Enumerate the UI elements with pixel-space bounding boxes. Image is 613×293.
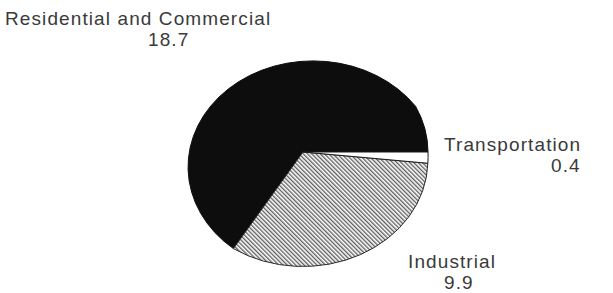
pie-chart-figure: Residential and Commercial 18.7 Transpor… [0, 0, 613, 293]
pie-value-transportation: 0.4 [551, 155, 581, 177]
pie-label-residential-and-commercial: Residential and Commercial [5, 8, 271, 30]
pie-label-industrial: Industrial [408, 251, 496, 273]
pie-label-transportation: Transportation [444, 134, 581, 156]
pie-value-industrial: 9.9 [444, 272, 474, 293]
pie-value-residential-and-commercial: 18.7 [148, 29, 189, 51]
